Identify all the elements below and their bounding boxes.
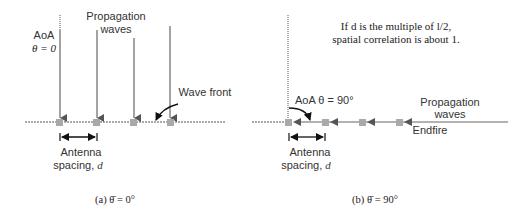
- propagation-label-line1: Propagation: [420, 96, 479, 108]
- spacing-label-line1: Antenna: [61, 146, 103, 158]
- panel-a: AoA θ = 0 Propagation waves Wave front A…: [25, 10, 231, 206]
- antenna-element: [130, 119, 137, 126]
- aoa-label: AoA: [34, 29, 55, 41]
- propagation-label-line2: waves: [433, 108, 466, 120]
- spacing-label-line1: Antenna: [290, 146, 332, 158]
- aoa-label: AoA θ = 90°: [295, 94, 354, 106]
- panel-b: If d is the multiple of l/2, spatial cor…: [252, 15, 508, 206]
- endfire-label: Endfire: [413, 124, 448, 136]
- spacing-label-line2: spacing, d: [53, 159, 103, 171]
- note-line2: spatial correlation is about 1.: [332, 33, 460, 45]
- propagation-label-line2: waves: [99, 23, 132, 35]
- wave-front-arrow: [156, 104, 178, 120]
- antenna-element: [167, 119, 174, 126]
- antenna-element: [396, 119, 403, 126]
- caption-a: (a) θ̄ = 0°: [95, 194, 135, 206]
- propagation-arrowhead: [367, 118, 375, 126]
- propagation-label-line1: Propagation: [86, 10, 145, 22]
- note-line1: If d is the multiple of l/2,: [341, 20, 452, 32]
- antenna-element: [359, 119, 366, 126]
- diagram-canvas: AoA θ = 0 Propagation waves Wave front A…: [0, 0, 528, 215]
- theta-label: θ = 0: [32, 42, 56, 54]
- spacing-label-line2: spacing, d: [281, 159, 331, 171]
- antenna-element: [285, 119, 292, 126]
- propagation-arrowhead: [330, 118, 338, 126]
- propagation-arrowhead: [293, 118, 301, 126]
- antenna-element: [93, 119, 100, 126]
- antenna-element: [56, 119, 63, 126]
- caption-b: (b) θ̄ = 90°: [352, 194, 398, 206]
- wave-front-label: Wave front: [179, 86, 232, 98]
- antenna-element: [322, 119, 329, 126]
- propagation-arrowhead: [404, 118, 412, 126]
- aoa-angle-arc: [289, 108, 310, 120]
